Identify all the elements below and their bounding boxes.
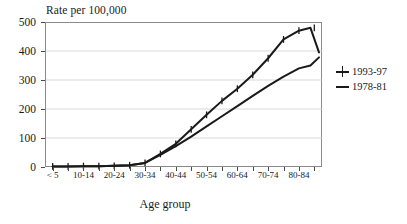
x-tick-label: 10-14 bbox=[73, 170, 94, 180]
x-tick-mark bbox=[68, 167, 69, 171]
x-axis-title: Age group bbox=[0, 197, 330, 212]
x-tick-mark bbox=[253, 167, 254, 171]
legend-label: 1978-81 bbox=[352, 79, 387, 94]
y-tick-label: 100 bbox=[2, 132, 36, 144]
y-tick-mark bbox=[41, 138, 45, 139]
legend-label: 1993-97 bbox=[352, 64, 387, 79]
y-tick-mark bbox=[41, 22, 45, 23]
x-tick-label: 30-34 bbox=[135, 170, 156, 180]
y-tick-mark bbox=[41, 80, 45, 81]
plot-area bbox=[45, 22, 322, 167]
x-tick-mark bbox=[160, 167, 161, 171]
y-tick-label: 500 bbox=[2, 16, 36, 28]
x-tick-mark bbox=[99, 167, 100, 171]
y-tick-label: 300 bbox=[2, 74, 36, 86]
legend-item-1978-81[interactable]: 1978-81 bbox=[336, 79, 387, 94]
x-tick-mark bbox=[222, 167, 223, 171]
x-tick-label: < 5 bbox=[47, 170, 59, 180]
x-tick-mark bbox=[191, 167, 192, 171]
y-tick-label: 400 bbox=[2, 45, 36, 57]
line-marker-icon bbox=[336, 80, 349, 93]
rate-by-age-line-chart: Rate per 100,000 0100200300400500 < 510-… bbox=[0, 0, 407, 224]
x-tick-label: 70-74 bbox=[258, 170, 279, 180]
y-tick-mark bbox=[41, 167, 45, 168]
x-tick-label: 60-64 bbox=[227, 170, 248, 180]
legend-item-1993-97[interactable]: 1993-97 bbox=[336, 64, 387, 79]
y-tick-label: 200 bbox=[2, 103, 36, 115]
y-axis-title: Rate per 100,000 bbox=[46, 4, 126, 16]
x-tick-label: 80-84 bbox=[288, 170, 309, 180]
x-tick-mark bbox=[314, 167, 315, 171]
plot-canvas bbox=[45, 22, 322, 167]
x-tick-mark bbox=[130, 167, 131, 171]
x-tick-label: 20-24 bbox=[104, 170, 125, 180]
y-tick-label: 0 bbox=[2, 161, 36, 173]
y-tick-mark bbox=[41, 109, 45, 110]
chart-legend: 1993-97 1978-81 bbox=[336, 64, 387, 94]
x-tick-label: 50-54 bbox=[196, 170, 217, 180]
x-tick-label: 40-44 bbox=[165, 170, 186, 180]
x-tick-mark bbox=[284, 167, 285, 171]
y-tick-mark bbox=[41, 51, 45, 52]
cross-marker-icon bbox=[336, 65, 349, 78]
